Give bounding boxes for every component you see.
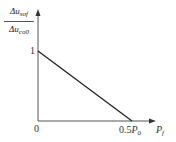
x-axis-arrow-icon xyxy=(149,119,156,124)
y-den-sub: co0 xyxy=(19,28,29,36)
data-line xyxy=(38,51,132,121)
x-tick-prefix: 0.5 xyxy=(119,124,132,135)
x-axis-label: Pf xyxy=(156,125,164,138)
y-den-var: Δu xyxy=(9,24,19,34)
y-label-numerator: Δusof xyxy=(4,6,34,22)
x-axis-sub: f xyxy=(162,129,164,137)
y-num-sub: sof xyxy=(20,10,28,18)
y-axis-label: Δusof Δuco0 xyxy=(4,6,34,37)
x-tick-end: 0.5P0 xyxy=(119,125,141,138)
y-label-denominator: Δuco0 xyxy=(4,22,34,37)
y-num-var: Δu xyxy=(10,6,20,16)
x-tick-sub: 0 xyxy=(138,129,142,137)
y-axis-arrow-icon xyxy=(36,9,41,16)
origin-label: 0 xyxy=(34,124,39,134)
y-tick-1: 1 xyxy=(30,46,35,56)
